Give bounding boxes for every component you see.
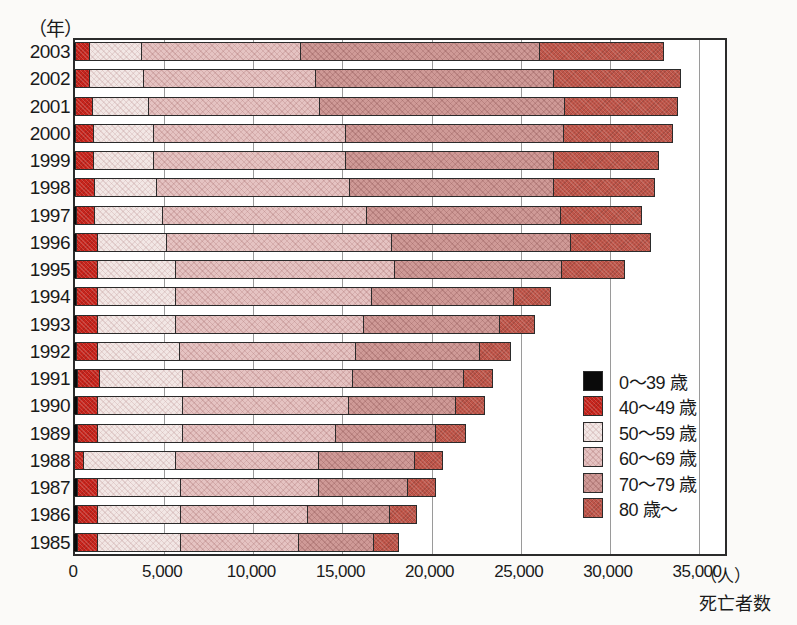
- stacked-bar[interactable]: [73, 315, 542, 334]
- x-tick-label: 0: [69, 562, 78, 582]
- stacked-bar[interactable]: [73, 478, 443, 497]
- bar-segment: [73, 505, 78, 524]
- legend-swatch-icon: [583, 473, 603, 493]
- bar-segment: [455, 396, 485, 415]
- legend-label: 70〜79 歳: [619, 470, 697, 496]
- bar-segment: [73, 369, 78, 388]
- bar-segment: [390, 233, 570, 252]
- stacked-bar[interactable]: [73, 451, 449, 470]
- bar-segment: [174, 260, 395, 279]
- stacked-bar[interactable]: [73, 69, 687, 88]
- bar-segment: [73, 69, 76, 88]
- bar-segment: [153, 124, 346, 143]
- bar-segment: [174, 451, 318, 470]
- bar-segment: [74, 451, 84, 470]
- bar-row: [73, 147, 727, 174]
- bar-segment: [351, 369, 464, 388]
- bar-segment: [73, 260, 77, 279]
- legend-swatch-icon: [583, 422, 603, 442]
- bar-segment: [559, 206, 642, 225]
- bar-segment: [560, 260, 624, 279]
- bar-segment: [73, 124, 76, 143]
- legend-item[interactable]: 60〜69 歳: [583, 445, 733, 471]
- bar-segment: [73, 451, 75, 470]
- x-axis-tick-labels: 05,00010,00015,00020,00025,00030,00035,0…: [0, 562, 797, 588]
- stacked-bar[interactable]: [73, 97, 685, 116]
- bar-segment: [345, 124, 564, 143]
- bar-segment: [77, 505, 99, 524]
- bar-segment: [83, 451, 176, 470]
- bar-segment: [76, 396, 98, 415]
- x-tick-label: 20,000: [405, 562, 454, 582]
- stacked-bar[interactable]: [73, 533, 406, 552]
- stacked-bar[interactable]: [73, 178, 661, 197]
- bar-segment: [75, 97, 93, 116]
- stacked-bar[interactable]: [73, 342, 518, 361]
- stacked-bar[interactable]: [73, 42, 670, 61]
- bar-segment: [97, 396, 183, 415]
- stacked-bar[interactable]: [73, 369, 499, 388]
- bar-segment: [75, 178, 95, 197]
- bar-segment: [75, 233, 98, 252]
- bar-segment: [180, 478, 319, 497]
- legend-label: 0〜39 歳: [619, 368, 687, 394]
- bar-segment: [162, 206, 367, 225]
- bar-segment: [97, 505, 181, 524]
- stacked-bar[interactable]: [73, 260, 631, 279]
- stacked-bar[interactable]: [73, 233, 658, 252]
- bar-segment: [140, 42, 300, 61]
- bar-row: [73, 529, 727, 556]
- bar-segment: [94, 178, 157, 197]
- legend-label: 60〜69 歳: [619, 444, 697, 470]
- year-label: 1997: [4, 206, 70, 225]
- year-label: 1993: [4, 315, 70, 334]
- bar-segment: [180, 505, 308, 524]
- bar-segment: [97, 478, 181, 497]
- bar-segment: [73, 424, 78, 443]
- bar-segment: [348, 396, 457, 415]
- bar-segment: [307, 505, 390, 524]
- bar-segment: [478, 342, 511, 361]
- bar-segment: [88, 42, 141, 61]
- legend-item[interactable]: 70〜79 歳: [583, 470, 733, 496]
- legend-item[interactable]: 80 歳〜: [583, 496, 733, 522]
- bar-row: [73, 38, 727, 65]
- year-label: 1986: [4, 505, 70, 524]
- legend-item[interactable]: 50〜59 歳: [583, 419, 733, 445]
- bar-segment: [298, 533, 374, 552]
- bar-segment: [73, 342, 77, 361]
- bar-segment: [563, 124, 673, 143]
- stacked-bar[interactable]: [73, 505, 423, 524]
- bar-segment: [513, 287, 551, 306]
- bar-segment: [76, 260, 99, 279]
- stacked-bar[interactable]: [73, 151, 666, 170]
- bar-segment: [73, 42, 76, 61]
- stacked-bar[interactable]: [73, 124, 679, 143]
- bar-segment: [394, 260, 562, 279]
- bar-segment: [73, 97, 76, 116]
- stacked-bar[interactable]: [73, 287, 558, 306]
- bar-segment: [181, 424, 336, 443]
- stacked-bar-chart: （年） 200320022001200019991998199719961995…: [0, 0, 797, 625]
- year-label: 1989: [4, 424, 70, 443]
- bar-segment: [174, 315, 364, 334]
- bar-segment: [73, 478, 78, 497]
- stacked-bar[interactable]: [73, 424, 472, 443]
- bar-segment: [143, 69, 316, 88]
- bar-segment: [74, 42, 89, 61]
- bar-segment: [553, 178, 655, 197]
- bar-segment: [363, 315, 500, 334]
- stacked-bar[interactable]: [73, 396, 492, 415]
- stacked-bar[interactable]: [73, 206, 649, 225]
- year-label: 2003: [4, 42, 70, 61]
- year-label: 1996: [4, 233, 70, 252]
- bar-segment: [435, 424, 466, 443]
- year-label: 2001: [4, 97, 70, 116]
- bar-segment: [366, 206, 561, 225]
- bar-segment: [388, 505, 417, 524]
- bar-row: [73, 65, 727, 92]
- bar-segment: [345, 151, 554, 170]
- legend-item[interactable]: 0〜39 歳: [583, 368, 733, 394]
- legend-item[interactable]: 40〜49 歳: [583, 394, 733, 420]
- legend-label: 40〜49 歳: [619, 393, 697, 419]
